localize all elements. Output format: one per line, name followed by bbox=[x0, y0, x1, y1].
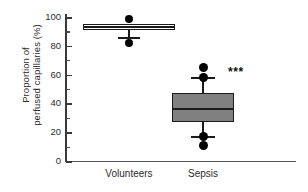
box-plot-figure: Proportion of perfused capillaries (%) 1… bbox=[0, 0, 308, 192]
y-tick-label-0: 0 bbox=[31, 156, 61, 166]
outlier-point-sepsis-65 bbox=[199, 63, 208, 72]
y-minor-tick-30 bbox=[66, 118, 70, 119]
y-minor-tick-50 bbox=[66, 89, 70, 90]
y-tick-80 bbox=[66, 46, 72, 48]
y-axis-line bbox=[65, 14, 67, 162]
outlier-point-sepsis-17 bbox=[199, 132, 208, 141]
outlier-point-volunteers-low bbox=[125, 39, 133, 47]
box-group-sepsis bbox=[148, 0, 258, 162]
y-tick-20 bbox=[66, 132, 72, 134]
median-line-sepsis bbox=[172, 108, 234, 110]
outlier-point-volunteers-high bbox=[125, 15, 133, 23]
y-tick-label-20: 20 bbox=[31, 127, 61, 137]
y-minor-tick-10 bbox=[66, 147, 70, 148]
y-tick-label-80: 80 bbox=[31, 41, 61, 51]
y-tick-100 bbox=[66, 17, 72, 19]
outlier-point-sepsis-11 bbox=[199, 141, 208, 150]
y-tick-label-40: 40 bbox=[31, 98, 61, 108]
y-minor-tick-90 bbox=[66, 31, 70, 32]
outlier-point-sepsis-58 bbox=[199, 73, 208, 82]
y-tick-60 bbox=[66, 75, 72, 77]
y-tick-0 bbox=[66, 161, 72, 163]
y-minor-tick-70 bbox=[66, 60, 70, 61]
y-tick-label-100: 100 bbox=[31, 12, 61, 22]
x-tick-label-sepsis: Sepsis bbox=[148, 168, 258, 179]
significance-marker: *** bbox=[228, 66, 244, 78]
y-tick-label-60: 60 bbox=[31, 70, 61, 80]
y-tick-40 bbox=[66, 103, 72, 105]
